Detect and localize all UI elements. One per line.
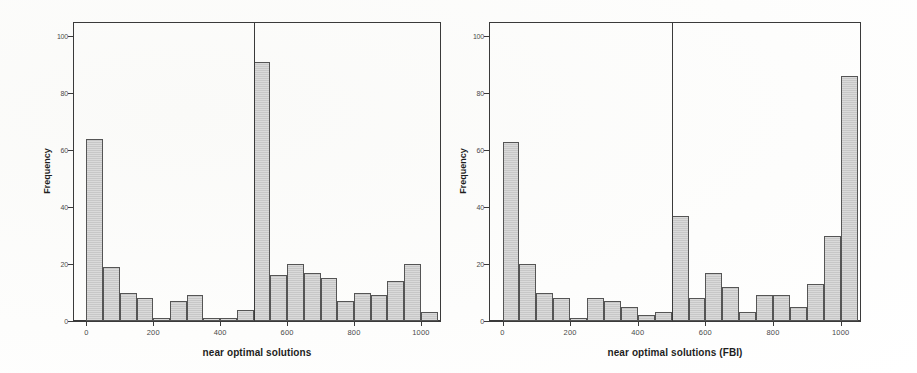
- x-axis-tick-label: 0: [84, 328, 88, 337]
- y-axis-tick: [68, 264, 73, 265]
- x-axis-tick: [220, 321, 221, 326]
- x-axis-tick-label: 200: [147, 328, 160, 337]
- y-axis-tick-label: 60: [61, 147, 68, 154]
- x-axis-tick-label: 200: [564, 328, 577, 337]
- histogram-bar: [421, 312, 438, 321]
- histogram-bar: [170, 301, 187, 321]
- histogram-bar: [270, 275, 287, 321]
- x-axis-tick-label: 800: [347, 328, 360, 337]
- histogram-bar: [503, 142, 520, 321]
- histogram-bar: [672, 216, 689, 321]
- histogram-bar: [137, 298, 154, 321]
- histogram-bar: [387, 281, 404, 321]
- y-axis-tick: [68, 207, 73, 208]
- x-axis-tick: [705, 321, 706, 326]
- histogram-bar: [536, 293, 553, 321]
- x-axis-tick: [86, 321, 87, 326]
- x-axis-tick: [153, 321, 154, 326]
- histogram-bar: [254, 62, 271, 321]
- histogram-bars-left: [73, 22, 441, 321]
- y-axis-tick-label: 100: [473, 33, 484, 40]
- histogram-bar: [621, 307, 638, 321]
- histogram-bar: [756, 295, 773, 321]
- chart-panel-left: 020406080100 02004006008001000 Frequency…: [0, 0, 460, 373]
- histogram-bar: [404, 264, 421, 321]
- histogram-bar: [287, 264, 304, 321]
- histogram-bar: [655, 312, 672, 321]
- x-axis-tick: [287, 321, 288, 326]
- y-axis-tick: [68, 150, 73, 151]
- y-axis-tick-label: 20: [61, 261, 68, 268]
- histogram-bar: [304, 273, 321, 321]
- histogram-bar: [337, 301, 354, 321]
- histogram-bar: [321, 278, 338, 321]
- y-axis-tick-label: 80: [477, 90, 484, 97]
- histogram-bar: [722, 287, 739, 321]
- y-axis-tick-label: 100: [57, 33, 68, 40]
- y-axis-tick-label: 40: [477, 204, 484, 211]
- x-axis-tick-label: 600: [281, 328, 294, 337]
- x-axis-tick-label: 1000: [412, 328, 430, 337]
- histogram-bar: [604, 301, 621, 321]
- y-axis-tick-label: 20: [477, 261, 484, 268]
- vertical-reference-line: [254, 22, 255, 321]
- histogram-bar: [705, 273, 722, 321]
- y-axis-tick-label: 0: [64, 318, 68, 325]
- y-axis-tick-label: 80: [61, 90, 68, 97]
- histogram-bar: [237, 310, 254, 321]
- y-axis-tick: [484, 264, 489, 265]
- x-axis-tick: [570, 321, 571, 326]
- histogram-bar: [519, 264, 536, 321]
- x-axis-tick: [638, 321, 639, 326]
- x-axis-tick: [503, 321, 504, 326]
- y-axis-tick: [484, 207, 489, 208]
- histogram-bar: [587, 298, 604, 321]
- histogram-bar: [86, 139, 103, 321]
- x-axis-tick: [354, 321, 355, 326]
- y-axis-tick: [68, 93, 73, 94]
- x-axis-tick-label: 800: [767, 328, 780, 337]
- y-axis-title-right: Frequency: [458, 121, 468, 221]
- y-axis-tick-label: 0: [480, 318, 484, 325]
- histogram-bars-right: [489, 22, 861, 321]
- y-axis-tick: [484, 150, 489, 151]
- histogram-bar: [689, 298, 706, 321]
- x-axis-left: 02004006008001000: [73, 321, 441, 322]
- y-axis-tick: [484, 36, 489, 37]
- histogram-bar: [807, 284, 824, 321]
- histogram-bar: [773, 295, 790, 321]
- histogram-bar: [824, 236, 841, 321]
- y-axis-tick: [68, 36, 73, 37]
- histogram-bar: [790, 307, 807, 321]
- histogram-bar: [354, 293, 371, 321]
- x-axis-title-right: near optimal solutions (FBI): [489, 347, 861, 358]
- histogram-bar: [103, 267, 120, 321]
- x-axis-tick-label: 1000: [832, 328, 850, 337]
- x-axis-tick-label: 600: [699, 328, 712, 337]
- x-axis-tick: [841, 321, 842, 326]
- vertical-reference-line: [672, 22, 673, 321]
- chart-panel-right: 020406080100 02004006008001000 Frequency…: [457, 0, 917, 373]
- histogram-bar: [187, 295, 204, 321]
- y-axis-right: 020406080100: [489, 22, 490, 321]
- x-axis-tick: [773, 321, 774, 326]
- y-axis-left: 020406080100: [73, 22, 74, 321]
- histogram-bar: [841, 76, 858, 321]
- histogram-bar: [371, 295, 388, 321]
- x-axis-tick-label: 400: [214, 328, 227, 337]
- x-axis-tick: [421, 321, 422, 326]
- y-axis-tick: [484, 93, 489, 94]
- y-axis-title-left: Frequency: [42, 121, 52, 221]
- histogram-bar: [739, 312, 756, 321]
- histogram-bar: [553, 298, 570, 321]
- x-axis-tick-label: 0: [500, 328, 504, 337]
- histogram-bar: [120, 293, 137, 321]
- x-axis-right: 02004006008001000: [489, 321, 861, 322]
- y-axis-tick-label: 60: [477, 147, 484, 154]
- x-axis-title-left: near optimal solutions: [73, 347, 441, 358]
- y-axis-tick-label: 40: [61, 204, 68, 211]
- x-axis-tick-label: 400: [631, 328, 644, 337]
